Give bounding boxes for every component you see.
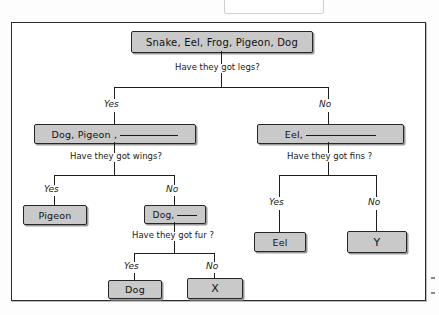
- connector-wings-bar: [54, 175, 175, 176]
- connector-fins-no-drop: [376, 175, 377, 197]
- connector-legs-yes-tail: [114, 112, 115, 124]
- fur-yes-node[interactable]: Dog: [108, 280, 162, 299]
- fur-no-node[interactable]: X: [187, 278, 243, 299]
- question-legs: Have they got legs?: [175, 62, 260, 72]
- cut-off-box-fragment: [224, 0, 324, 14]
- root-node[interactable]: Snake, Eel, Frog, Pigeon, Dog: [131, 31, 313, 53]
- question-fur: Have they got fur ?: [132, 230, 214, 240]
- connector-legs-down: [221, 73, 222, 87]
- connector-fur-bar: [134, 253, 215, 254]
- scanned-page: Snake, Eel, Frog, Pigeon, Dog Have they …: [0, 0, 439, 315]
- connector-wings-down: [114, 162, 115, 175]
- scan-speck: [431, 277, 435, 279]
- fins-no-node-label: Y: [374, 236, 381, 249]
- legs-no-node-label: Eel,: [285, 129, 303, 140]
- connector-wings-yes-tail: [54, 196, 55, 205]
- connector-fur-yes-tail: [134, 273, 135, 280]
- branch-label-wings-no: No: [166, 184, 178, 194]
- connector-legs-bar: [114, 87, 329, 88]
- connector-legs-no-tail: [328, 112, 329, 124]
- legs-yes-node-label: Dog, Pigeon ,: [52, 129, 118, 140]
- connector-fins-no-tail: [376, 210, 377, 232]
- wings-no-node-label: Dog,: [153, 210, 175, 220]
- wings-yes-node-label: Pigeon: [38, 210, 71, 221]
- legs-no-node-blank: [306, 135, 376, 136]
- connector-fins-down: [328, 162, 329, 175]
- legs-no-node[interactable]: Eel,: [257, 124, 404, 144]
- connector-fins-yes-tail: [279, 210, 280, 232]
- question-wings: Have they got wings?: [70, 151, 162, 161]
- connector-legs-no-drop: [328, 87, 329, 99]
- branch-label-wings-yes: Yes: [44, 184, 59, 194]
- branch-label-fins-yes: Yes: [269, 197, 284, 207]
- fur-yes-node-label: Dog: [125, 284, 145, 295]
- legs-yes-node-blank: [120, 135, 178, 136]
- branch-label-fur-no: No: [206, 261, 218, 271]
- connector-legs-yes-drop: [114, 87, 115, 99]
- wings-yes-node[interactable]: Pigeon: [23, 205, 87, 225]
- connector-fins-yes-drop: [279, 175, 280, 197]
- fins-yes-node-label: Eel: [272, 237, 287, 248]
- legs-yes-node[interactable]: Dog, Pigeon ,: [34, 124, 196, 144]
- wings-no-node-blank: [177, 215, 197, 216]
- connector-wings-no-tail: [174, 196, 175, 205]
- connector-fins-bar: [279, 175, 377, 176]
- branch-label-legs-yes: Yes: [104, 99, 119, 109]
- fins-no-node[interactable]: Y: [347, 231, 407, 253]
- branch-label-legs-no: No: [319, 99, 331, 109]
- root-node-label: Snake, Eel, Frog, Pigeon, Dog: [146, 37, 298, 48]
- question-fins: Have they got fins ?: [287, 151, 372, 161]
- diagram-frame: Snake, Eel, Frog, Pigeon, Dog Have they …: [11, 22, 426, 301]
- scan-speck: [431, 292, 435, 294]
- branch-label-fins-no: No: [368, 197, 380, 207]
- connector-fur-down: [174, 241, 175, 253]
- fins-yes-node[interactable]: Eel: [254, 232, 306, 252]
- branch-label-fur-yes: Yes: [124, 261, 139, 271]
- fur-no-node-label: X: [211, 282, 219, 295]
